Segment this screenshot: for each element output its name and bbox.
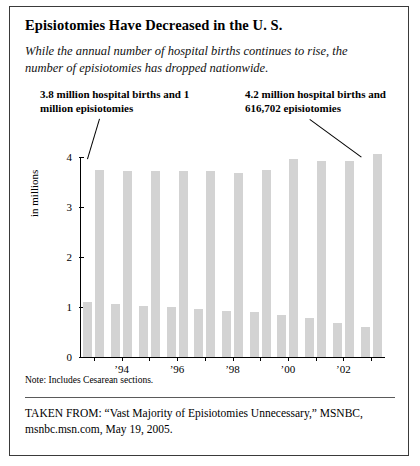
bar	[151, 171, 160, 357]
x-tick	[233, 357, 234, 361]
bar	[206, 171, 215, 357]
chart-figure-frame: Episiotomies Have Decreased in the U. S.…	[9, 6, 409, 456]
x-tick-label: ’98	[218, 363, 248, 375]
y-axis-label: in millions	[28, 170, 40, 217]
bar	[179, 171, 188, 357]
leader-line-right	[309, 119, 362, 158]
chart-subtitle: While the annual number of hospital birt…	[25, 43, 385, 77]
bar	[305, 318, 314, 357]
y-tick-label: 2	[56, 252, 72, 262]
bar	[262, 170, 271, 358]
bar	[250, 312, 259, 357]
x-tick	[149, 357, 150, 361]
source-credit: TAKEN FROM: “Vast Majority of Episiotomi…	[25, 405, 397, 437]
bar	[111, 304, 120, 357]
page-title: Episiotomies Have Decreased in the U. S.	[25, 17, 395, 34]
x-tick-label: ’02	[328, 363, 358, 375]
x-tick-label: ’00	[273, 363, 303, 375]
y-tick	[79, 257, 84, 258]
annotation-right: 4.2 million hospital births and 616,702 …	[245, 87, 405, 115]
y-tick	[79, 157, 84, 158]
bar	[123, 171, 132, 358]
x-tick	[288, 357, 289, 361]
x-tick	[343, 357, 344, 361]
bar	[222, 311, 231, 358]
leader-line-left	[87, 119, 100, 159]
divider	[25, 397, 395, 398]
y-tick-label: 3	[56, 202, 72, 212]
y-tick-label: 0	[56, 352, 72, 362]
bar	[345, 161, 354, 358]
bar	[194, 309, 203, 358]
bar	[317, 161, 326, 357]
x-tick	[371, 357, 372, 361]
x-tick-label: ’96	[162, 363, 192, 375]
bar	[83, 302, 92, 357]
x-tick	[122, 357, 123, 361]
chart-note: Note: Includes Cesarean sections.	[25, 375, 153, 385]
x-tick	[205, 357, 206, 361]
annotation-left: 3.8 million hospital births and 1 millio…	[40, 87, 210, 115]
x-tick	[177, 357, 178, 361]
y-tick	[79, 357, 84, 358]
bar	[234, 173, 243, 357]
bar	[95, 170, 104, 358]
bar	[139, 306, 148, 358]
y-tick-label: 4	[56, 152, 72, 162]
x-tick	[316, 357, 317, 361]
y-tick-label: 1	[56, 302, 72, 312]
bar	[289, 159, 298, 357]
bar	[361, 327, 370, 357]
plot-area: in millions 01234 ’94’96’98’00’02	[80, 157, 385, 357]
bar	[333, 323, 342, 357]
bar	[167, 307, 176, 357]
x-tick-label: ’94	[107, 363, 137, 375]
x-tick	[94, 357, 95, 361]
x-tick	[260, 357, 261, 361]
y-tick	[79, 207, 84, 208]
bar	[277, 315, 286, 357]
bar	[373, 154, 382, 357]
